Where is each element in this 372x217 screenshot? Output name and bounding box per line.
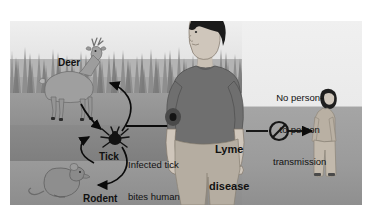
rodent-illustration [29, 163, 90, 197]
infected-bite-line-2: bites human [128, 192, 180, 203]
arrow-tick-to-deer [110, 83, 131, 131]
lyme-line-1: Lyme [209, 143, 249, 155]
tick-bite-mark [165, 108, 181, 126]
arrow-rodent-to-tick [81, 137, 94, 163]
no-transmission-line-3: transmission [273, 157, 326, 168]
deer-illustration [39, 38, 106, 121]
label-deer: Deer [58, 57, 80, 68]
label-no-person-to-person-transmission: No person- to-person transmission [273, 72, 326, 189]
label-infected-tick-bites-human: Infected tick bites human [128, 139, 180, 205]
infected-bite-line-1: Infected tick [128, 160, 180, 171]
label-rodent: Rodent [83, 193, 117, 204]
label-tick: Tick [99, 151, 119, 162]
no-transmission-line-1: No person- [273, 93, 326, 104]
lyme-disease-diagram: Deer Tick Rodent Infected tick bites hum… [0, 0, 372, 217]
label-lyme-disease: Lyme disease [209, 118, 249, 205]
no-transmission-line-2: to-person [273, 125, 326, 136]
lyme-line-2: disease [209, 180, 249, 192]
tick-illustration [101, 127, 129, 147]
scene-frame: Deer Tick Rodent Infected tick bites hum… [10, 21, 362, 205]
